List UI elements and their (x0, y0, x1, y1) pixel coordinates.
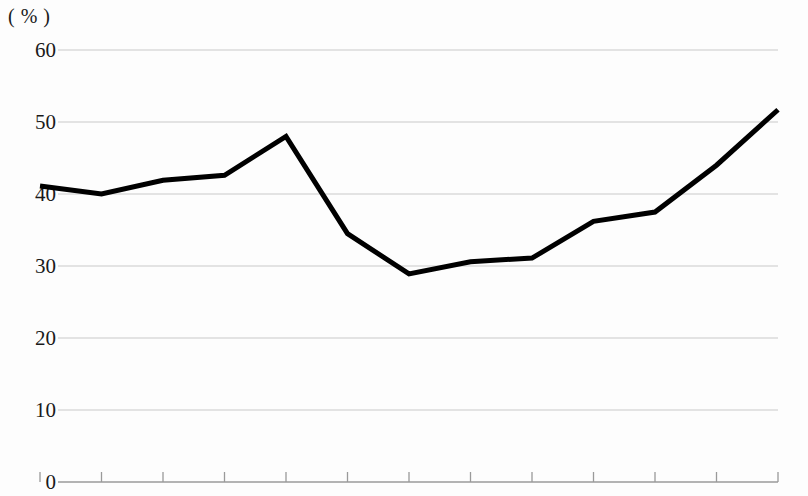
gridlines (58, 50, 778, 410)
line-chart: ( % ) 0 10 20 30 40 50 60 (0, 0, 808, 496)
plot-area (0, 0, 808, 496)
x-axis-ticks (40, 472, 778, 482)
data-series-line (40, 110, 778, 274)
